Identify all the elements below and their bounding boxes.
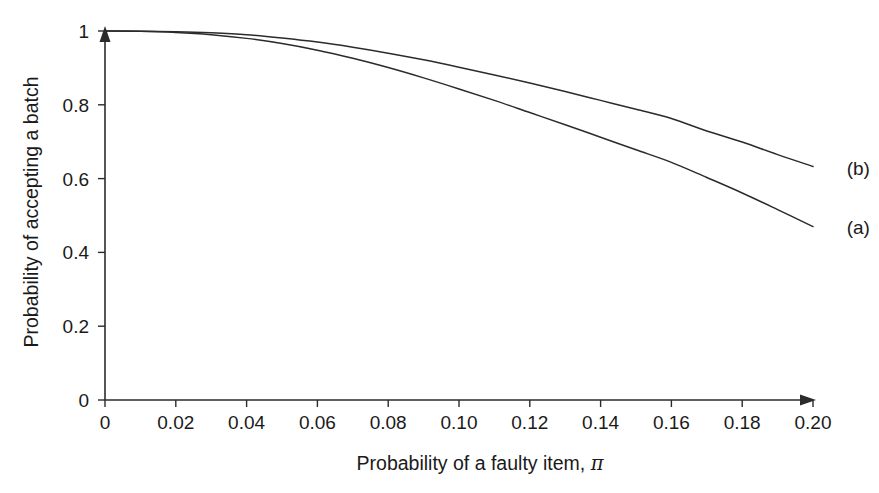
x-tick-label: 0.12 — [511, 412, 548, 433]
x-tick-label: 0.14 — [582, 412, 619, 433]
curve-b — [105, 31, 813, 166]
y-tick-label: 1 — [78, 21, 89, 42]
svg-text:Probability of a faulty item,: Probability of a faulty item, π — [357, 452, 605, 475]
x-axis-tick-labels: 00.020.040.060.080.100.120.140.160.180.2… — [100, 412, 832, 433]
y-tick-label: 0.2 — [63, 316, 89, 337]
x-tick-label: 0.10 — [441, 412, 478, 433]
x-tick-label: 0.06 — [299, 412, 336, 433]
pi-symbol: π — [590, 452, 605, 475]
x-tick-label: 0.02 — [157, 412, 194, 433]
x-tick-label: 0.18 — [724, 412, 761, 433]
x-axis-title: Probability of a faulty item, π — [357, 452, 605, 475]
operating-characteristic-chart: 00.20.40.60.81 00.020.040.060.080.100.12… — [0, 0, 879, 493]
series-label-b: (b) — [847, 158, 870, 179]
series-labels: (b)(a) — [847, 158, 870, 238]
x-axis-ticks — [105, 400, 813, 407]
data-curves — [105, 31, 813, 227]
y-tick-label: 0.6 — [63, 169, 89, 190]
y-tick-label: 0.8 — [63, 95, 89, 116]
x-axis-title-text: Probability of a faulty item, — [357, 452, 591, 474]
x-tick-label: 0 — [100, 412, 111, 433]
x-tick-label: 0.20 — [795, 412, 832, 433]
y-axis-tick-labels: 00.20.40.60.81 — [63, 21, 90, 411]
series-label-a: (a) — [847, 217, 870, 238]
curve-a — [105, 31, 813, 227]
x-axis: 00.020.040.060.080.100.120.140.160.180.2… — [100, 395, 832, 434]
figure-container: 00.20.40.60.81 00.020.040.060.080.100.12… — [0, 0, 879, 493]
y-axis-arrow-icon — [100, 26, 111, 42]
x-tick-label: 0.16 — [653, 412, 690, 433]
y-axis-title: Probability of accepting a batch — [20, 76, 42, 347]
y-axis-title-text: Probability of accepting a batch — [20, 76, 42, 347]
y-tick-label: 0.4 — [63, 242, 90, 263]
x-tick-label: 0.04 — [228, 412, 265, 433]
y-axis: 00.20.40.60.81 — [63, 21, 111, 411]
x-tick-label: 0.08 — [370, 412, 407, 433]
y-axis-ticks — [98, 31, 105, 400]
y-tick-label: 0 — [78, 390, 89, 411]
